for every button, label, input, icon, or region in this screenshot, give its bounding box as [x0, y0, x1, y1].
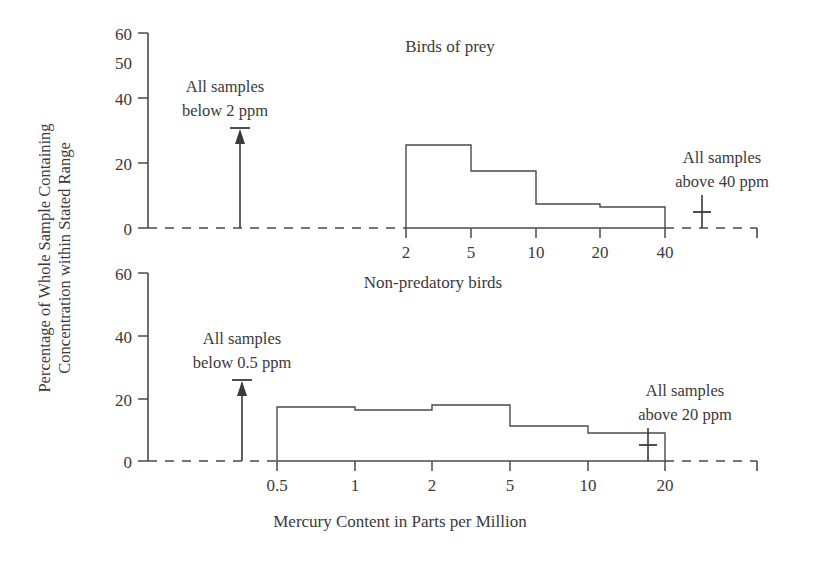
y-tick-label-40-lower: 40: [115, 328, 132, 347]
y-tick-label-0-upper: 0: [124, 220, 133, 239]
histogram-bars-upper: [406, 145, 665, 228]
x-tick-label-20-upper: 20: [592, 243, 609, 262]
x-tick-label-0p5-lower: 0.5: [266, 476, 287, 495]
annotation-above-lower-line2: above 20 ppm: [638, 405, 732, 424]
y-tick-label-0-lower: 0: [124, 453, 133, 472]
x-tick-label-40-upper: 40: [657, 243, 674, 262]
y-tick-label-20-upper: 20: [115, 155, 132, 174]
y-tick-label-20-lower: 20: [115, 391, 132, 410]
annotation-below-lower-line2: below 0.5 ppm: [193, 353, 292, 372]
annotation-below-lower-arrowhead: [237, 381, 247, 396]
panel-birds-of-prey: Birds of prey 60 50 40 20 0 2 5: [115, 25, 769, 262]
panel-title-upper: Birds of prey: [405, 37, 495, 56]
x-tick-label-1-lower: 1: [351, 476, 360, 495]
x-tick-label-5-upper: 5: [467, 243, 476, 262]
y-tick-label-40-upper: 40: [115, 90, 132, 109]
annotation-below-upper-arrowhead: [235, 129, 245, 144]
annotation-above-lower-line1: All samples: [646, 381, 724, 400]
x-axis-title: Mercury Content in Parts per Million: [273, 512, 527, 531]
annotation-below-upper: All samples below 2 ppm: [182, 77, 268, 228]
panel-title-lower: Non-predatory birds: [364, 273, 502, 292]
x-tick-label-5-lower: 5: [506, 476, 515, 495]
annotation-below-upper-line1: All samples: [186, 77, 264, 96]
annotation-above-lower: All samples above 20 ppm: [638, 381, 732, 461]
y-tick-label-60-lower: 60: [115, 265, 132, 284]
mercury-histogram-figure: Percentage of Whole Sample Containing Co…: [0, 0, 815, 565]
annotation-above-upper: All samples above 40 ppm: [675, 148, 769, 228]
y-tick-label-50-upper: 50: [115, 54, 132, 73]
annotation-below-lower-line1: All samples: [203, 329, 281, 348]
y-axis-label-line2: Concentration within Stated Range: [55, 142, 74, 373]
y-tick-label-60-upper: 60: [115, 25, 132, 44]
annotation-above-upper-line2: above 40 ppm: [675, 172, 769, 191]
x-tick-label-10-lower: 10: [580, 476, 597, 495]
y-axis-label-line1: Percentage of Whole Sample Containing: [35, 123, 54, 392]
panel-non-predatory-birds: Non-predatory birds 60 40 20 0 0.5: [115, 265, 757, 495]
x-tick-label-20-lower: 20: [657, 476, 674, 495]
histogram-bars-lower: [277, 405, 665, 461]
x-tick-label-10-upper: 10: [528, 243, 545, 262]
figure-root: Percentage of Whole Sample Containing Co…: [0, 0, 815, 565]
annotation-below-upper-line2: below 2 ppm: [182, 101, 268, 120]
x-tick-label-2-lower: 2: [428, 476, 437, 495]
annotation-above-upper-line1: All samples: [683, 148, 761, 167]
x-tick-label-2-upper: 2: [402, 243, 411, 262]
y-axis-label: Percentage of Whole Sample Containing Co…: [35, 123, 74, 392]
